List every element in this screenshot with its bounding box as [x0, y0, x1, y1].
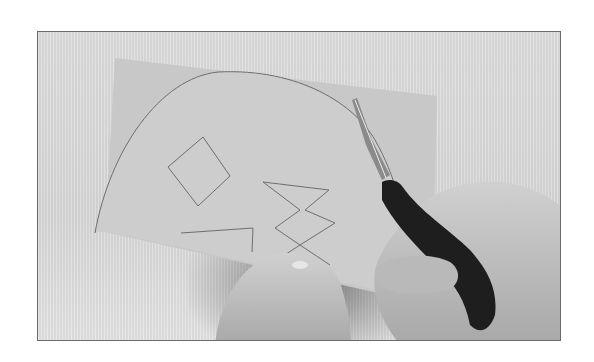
right-thumb — [376, 256, 458, 294]
thumbnail — [292, 261, 308, 269]
photo-scene — [0, 0, 594, 362]
